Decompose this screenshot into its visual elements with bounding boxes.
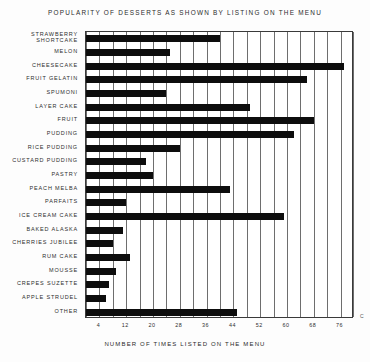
y-axis-label: CREPES SUZETTE	[0, 280, 78, 287]
y-axis-label: PARFAITS	[0, 198, 78, 205]
y-axis-label: FRUIT GELATIN	[0, 75, 78, 82]
y-axis-label: SPUMONI	[0, 89, 78, 96]
bar	[86, 186, 230, 193]
y-axis-label: OTHER	[0, 308, 78, 315]
bar	[86, 295, 106, 302]
bar	[86, 172, 153, 179]
y-axis-label: CHEESECAKE	[0, 62, 78, 69]
y-axis-label: RICE PUDDING	[0, 144, 78, 151]
y-axis-label: APPLE STRUDEL	[0, 294, 78, 301]
y-axis-label: LAYER CAKE	[0, 103, 78, 110]
y-axis-label: MOUSSE	[0, 267, 78, 274]
x-axis-tick-labels: 4122028364452606876	[85, 322, 353, 334]
bar	[86, 117, 314, 124]
bar	[86, 240, 113, 247]
y-axis-category-labels: STRAWBERRY SHORTCAKEMELONCHEESECAKEFRUIT…	[0, 31, 82, 318]
x-tick-label: 20	[149, 322, 156, 328]
x-tick-label: 44	[229, 322, 236, 328]
bar	[86, 309, 237, 316]
y-axis-label: CHERRIES JUBILEE	[0, 239, 78, 246]
bar	[86, 213, 284, 220]
x-tick-label: 68	[309, 322, 316, 328]
bar	[86, 254, 130, 261]
x-tick-label: 52	[256, 322, 263, 328]
y-axis-label: FRUIT	[0, 116, 78, 123]
x-tick-label: 60	[283, 322, 290, 328]
y-axis-label: RUM CAKE	[0, 253, 78, 260]
y-axis-label: BAKED ALASKA	[0, 226, 78, 233]
y-axis-label: MELON	[0, 48, 78, 55]
bar	[86, 104, 250, 111]
bar	[86, 158, 146, 165]
bar	[86, 268, 116, 275]
bar	[86, 35, 220, 42]
bar	[86, 227, 123, 234]
plot-area	[85, 31, 353, 318]
bar	[86, 145, 180, 152]
y-axis-label: PEACH MELBA	[0, 185, 78, 192]
bar	[86, 281, 109, 288]
bar	[86, 199, 126, 206]
bar	[86, 63, 344, 70]
y-axis-label: STRAWBERRY SHORTCAKE	[0, 31, 78, 44]
y-axis-label: PUDDING	[0, 130, 78, 137]
bar	[86, 131, 294, 138]
x-tick-label: 76	[336, 322, 343, 328]
y-axis-label: ICE CREAM CAKE	[0, 212, 78, 219]
bar	[86, 76, 307, 83]
x-tick-label: 36	[202, 322, 209, 328]
bar	[86, 49, 170, 56]
bars-layer	[86, 32, 352, 317]
bar	[86, 90, 166, 97]
gridline	[353, 32, 354, 317]
chart-title: POPULARITY OF DESSERTS AS SHOWN BY LISTI…	[0, 9, 370, 16]
chart-container: POPULARITY OF DESSERTS AS SHOWN BY LISTI…	[0, 0, 370, 362]
x-tick-label: 12	[122, 322, 129, 328]
y-axis-label: PASTRY	[0, 171, 78, 178]
x-tick-label: 28	[175, 322, 182, 328]
x-tick-label: 4	[97, 322, 101, 328]
y-axis-label: CUSTARD PUDDING	[0, 157, 78, 164]
x-axis-title: NUMBER OF TIMES LISTED ON THE MENU	[0, 341, 370, 347]
corner-mark: C	[360, 313, 364, 319]
